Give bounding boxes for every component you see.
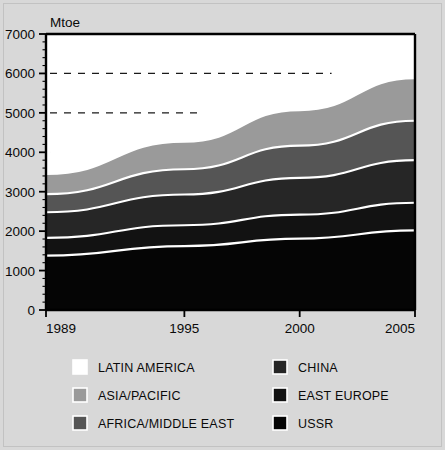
chart-legend: LATIN AMERICAASIA/PACIFICAFRICA/MIDDLE E…	[73, 360, 389, 431]
legend-item[interactable]: ASIA/PACIFIC	[73, 388, 181, 403]
legend-item[interactable]: USSR	[273, 416, 334, 431]
legend-label: USSR	[298, 417, 334, 431]
y-tick-label: 2000	[5, 224, 35, 239]
legend-swatch	[273, 388, 287, 402]
legend-label: EAST EUROPE	[298, 389, 389, 403]
legend-label: AFRICA/MIDDLE EAST	[98, 417, 234, 431]
y-tick-label: 1000	[5, 264, 35, 279]
x-tick-label: 2000	[285, 321, 315, 336]
legend-label: ASIA/PACIFIC	[98, 389, 181, 403]
legend-swatch	[73, 416, 87, 430]
stacked-area-chart: 0100020003000400050006000700019891995200…	[0, 0, 445, 450]
legend-swatch	[73, 360, 87, 374]
y-tick-label: 4000	[5, 145, 35, 160]
legend-swatch	[73, 388, 87, 402]
legend-item[interactable]: LATIN AMERICA	[73, 360, 195, 375]
legend-label: LATIN AMERICA	[98, 361, 195, 375]
legend-item[interactable]: EAST EUROPE	[273, 388, 389, 403]
legend-label: CHINA	[298, 361, 338, 375]
y-tick-label: 0	[27, 303, 35, 318]
y-tick-label: 5000	[5, 106, 35, 121]
legend-swatch	[273, 360, 287, 374]
legend-item[interactable]: CHINA	[273, 360, 338, 375]
x-tick-label: 1989	[46, 321, 76, 336]
y-tick-label: 3000	[5, 185, 35, 200]
y-tick-label: 6000	[5, 66, 35, 81]
x-tick-label: 1995	[169, 321, 199, 336]
legend-item[interactable]: AFRICA/MIDDLE EAST	[73, 416, 234, 431]
legend-swatch	[273, 416, 287, 430]
screenshot-root: 0100020003000400050006000700019891995200…	[0, 0, 445, 450]
x-axis-ticks: 1989199520002005	[46, 310, 415, 336]
y-tick-label: 7000	[5, 27, 35, 42]
y-axis-unit-label: Mtoe	[50, 15, 80, 30]
y-axis-ticks: 01000200030004000500060007000	[5, 27, 46, 318]
x-tick-label: 2005	[385, 321, 415, 336]
